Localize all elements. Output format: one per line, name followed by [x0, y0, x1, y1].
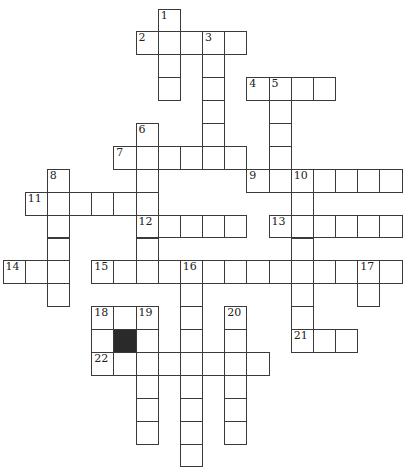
- grid-cell[interactable]: [158, 352, 181, 376]
- cell-input[interactable]: [137, 261, 158, 283]
- cell-input[interactable]: [380, 261, 401, 283]
- cell-input[interactable]: [48, 193, 69, 215]
- cell-input[interactable]: [137, 147, 158, 169]
- grid-cell[interactable]: 12: [136, 215, 159, 239]
- grid-cell[interactable]: [269, 146, 292, 170]
- cell-input[interactable]: [137, 353, 158, 375]
- grid-cell[interactable]: 19: [136, 306, 159, 330]
- cell-input[interactable]: [314, 216, 335, 238]
- cell-input[interactable]: [92, 193, 113, 215]
- grid-cell[interactable]: [246, 352, 269, 376]
- cell-input[interactable]: [181, 147, 202, 169]
- cell-input[interactable]: [358, 216, 379, 238]
- grid-cell[interactable]: 18: [91, 306, 114, 330]
- cell-input[interactable]: [114, 353, 135, 375]
- grid-cell[interactable]: [224, 421, 247, 445]
- cell-input[interactable]: [159, 147, 180, 169]
- grid-cell[interactable]: 17: [357, 260, 380, 284]
- cell-input[interactable]: [137, 170, 158, 192]
- grid-cell[interactable]: [246, 260, 269, 284]
- cell-input[interactable]: [336, 170, 357, 192]
- cell-input[interactable]: [181, 399, 202, 421]
- grid-cell[interactable]: [224, 329, 247, 353]
- cell-input[interactable]: [292, 239, 313, 261]
- grid-cell[interactable]: [269, 100, 292, 124]
- grid-cell[interactable]: [202, 260, 225, 284]
- cell-input[interactable]: [181, 216, 202, 238]
- grid-cell[interactable]: [91, 192, 114, 216]
- grid-cell[interactable]: [180, 398, 203, 422]
- cell-input[interactable]: [225, 261, 246, 283]
- grid-cell[interactable]: [136, 421, 159, 445]
- grid-cell[interactable]: [335, 260, 358, 284]
- cell-input[interactable]: [181, 445, 202, 467]
- grid-cell[interactable]: [47, 260, 70, 284]
- grid-cell[interactable]: [379, 260, 402, 284]
- grid-cell[interactable]: [180, 215, 203, 239]
- grid-cell[interactable]: 8: [47, 169, 70, 193]
- grid-cell[interactable]: [291, 77, 314, 101]
- cell-input[interactable]: [181, 376, 202, 398]
- grid-cell[interactable]: [202, 123, 225, 147]
- grid-cell[interactable]: [158, 215, 181, 239]
- cell-input[interactable]: [292, 78, 313, 100]
- grid-cell[interactable]: [291, 215, 314, 239]
- cell-input[interactable]: [137, 376, 158, 398]
- grid-cell[interactable]: [379, 169, 402, 193]
- grid-cell[interactable]: [224, 398, 247, 422]
- grid-cell[interactable]: [136, 192, 159, 216]
- grid-cell[interactable]: 5: [269, 77, 292, 101]
- cell-input[interactable]: [159, 261, 180, 283]
- grid-cell[interactable]: [47, 238, 70, 262]
- cell-input[interactable]: [358, 170, 379, 192]
- grid-cell[interactable]: [136, 260, 159, 284]
- cell-input[interactable]: [159, 216, 180, 238]
- grid-cell[interactable]: [335, 215, 358, 239]
- cell-input[interactable]: [159, 78, 180, 100]
- cell-input[interactable]: [314, 330, 335, 352]
- grid-cell[interactable]: [180, 329, 203, 353]
- grid-cell[interactable]: [313, 215, 336, 239]
- grid-cell[interactable]: [202, 352, 225, 376]
- grid-cell[interactable]: [269, 123, 292, 147]
- grid-cell[interactable]: [113, 306, 136, 330]
- cell-input[interactable]: [225, 399, 246, 421]
- grid-cell[interactable]: [47, 192, 70, 216]
- cell-input[interactable]: [314, 170, 335, 192]
- grid-cell[interactable]: 3: [202, 31, 225, 55]
- grid-cell[interactable]: [180, 283, 203, 307]
- grid-cell[interactable]: [180, 306, 203, 330]
- cell-input[interactable]: [225, 216, 246, 238]
- grid-cell[interactable]: [291, 283, 314, 307]
- cell-input[interactable]: [292, 261, 313, 283]
- cell-input[interactable]: [380, 170, 401, 192]
- cell-input[interactable]: [225, 422, 246, 444]
- grid-cell[interactable]: [136, 238, 159, 262]
- cell-input[interactable]: [137, 239, 158, 261]
- grid-cell[interactable]: [357, 283, 380, 307]
- grid-cell[interactable]: [136, 169, 159, 193]
- grid-cell[interactable]: [269, 169, 292, 193]
- grid-cell[interactable]: [357, 169, 380, 193]
- cell-input[interactable]: [137, 399, 158, 421]
- grid-cell[interactable]: [224, 146, 247, 170]
- grid-cell[interactable]: [158, 77, 181, 101]
- cell-input[interactable]: [380, 216, 401, 238]
- grid-cell[interactable]: [158, 260, 181, 284]
- grid-cell[interactable]: [25, 260, 48, 284]
- grid-cell[interactable]: [224, 375, 247, 399]
- cell-input[interactable]: [159, 32, 180, 54]
- cell-input[interactable]: [181, 284, 202, 306]
- grid-cell[interactable]: [180, 352, 203, 376]
- grid-cell[interactable]: [158, 54, 181, 78]
- cell-input[interactable]: [48, 239, 69, 261]
- cell-input[interactable]: [181, 330, 202, 352]
- cell-input[interactable]: [292, 216, 313, 238]
- cell-input[interactable]: [159, 55, 180, 77]
- cell-input[interactable]: [203, 124, 224, 146]
- cell-input[interactable]: [225, 32, 246, 54]
- grid-cell[interactable]: 1: [158, 9, 181, 33]
- grid-cell[interactable]: [91, 329, 114, 353]
- cell-input[interactable]: [203, 216, 224, 238]
- cell-input[interactable]: [203, 261, 224, 283]
